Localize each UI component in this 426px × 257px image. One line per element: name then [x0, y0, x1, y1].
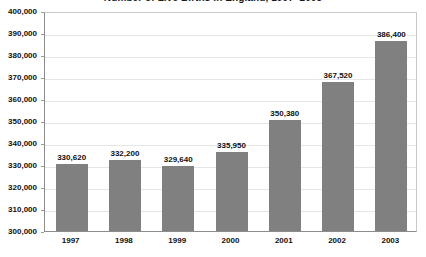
chart-title: Number of Live Births in England, 1997–2…	[0, 0, 426, 3]
y-axis-tick-mark	[41, 232, 44, 233]
bar-value-label: 332,200	[100, 149, 150, 158]
bar-group[interactable]: 350,380	[269, 11, 301, 231]
bar[interactable]	[322, 82, 354, 231]
bar-chart: Number of Live Births in England, 1997–2…	[0, 0, 426, 257]
y-axis-tick-label: 310,000	[0, 206, 37, 214]
bar-group[interactable]: 329,640	[162, 11, 194, 231]
y-axis-tick-label: 340,000	[0, 140, 37, 148]
x-axis-tick-label: 2001	[259, 236, 309, 246]
bar-value-label: 350,380	[260, 109, 310, 118]
x-axis-tick-label: 2003	[365, 236, 415, 246]
bar[interactable]	[375, 41, 407, 231]
x-axis: 1997199819992000200120022003	[44, 236, 417, 252]
bar[interactable]	[216, 152, 248, 231]
bar[interactable]	[109, 160, 141, 231]
y-axis-tick-label: 370,000	[0, 74, 37, 82]
x-axis-tick-label: 2000	[206, 236, 256, 246]
x-axis-tick-label: 1998	[99, 236, 149, 246]
bar-group[interactable]: 330,620	[56, 11, 88, 231]
bar[interactable]	[56, 164, 88, 231]
y-axis-tick-label: 300,000	[0, 228, 37, 236]
bar-value-label: 386,400	[366, 30, 416, 39]
plot-area: 330,620332,200329,640335,950350,380367,5…	[44, 12, 417, 232]
x-axis-tick-label: 2002	[312, 236, 362, 246]
bar-group[interactable]: 332,200	[109, 11, 141, 231]
y-axis-tick-label: 320,000	[0, 184, 37, 192]
bar-value-label: 330,620	[47, 153, 97, 162]
bar-value-label: 335,950	[207, 141, 257, 150]
x-axis-tick-label: 1997	[46, 236, 96, 246]
bars-layer: 330,620332,200329,640335,950350,380367,5…	[45, 13, 416, 231]
y-axis-tick-label: 350,000	[0, 118, 37, 126]
x-axis-tick-label: 1999	[152, 236, 202, 246]
bar[interactable]	[162, 166, 194, 231]
y-axis-tick-label: 400,000	[0, 8, 37, 16]
y-axis-tick-label: 390,000	[0, 30, 37, 38]
y-axis-tick-label: 330,000	[0, 162, 37, 170]
bar-group[interactable]: 367,520	[322, 11, 354, 231]
y-axis-tick-label: 380,000	[0, 52, 37, 60]
y-axis-tick-label: 360,000	[0, 96, 37, 104]
bar-value-label: 367,520	[313, 71, 363, 80]
bar[interactable]	[269, 120, 301, 231]
bar-group[interactable]: 335,950	[216, 11, 248, 231]
bar-value-label: 329,640	[153, 155, 203, 164]
y-axis: 400,000390,000380,000370,000360,000350,0…	[0, 0, 41, 257]
bar-group[interactable]: 386,400	[375, 11, 407, 231]
